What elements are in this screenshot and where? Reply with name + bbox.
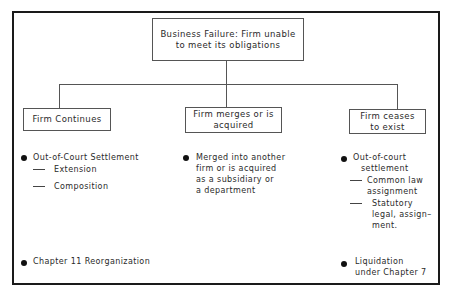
subitem-extension: Extension [54, 164, 97, 175]
connector-root-down [226, 61, 227, 84]
connector-horizontal [59, 84, 398, 85]
connector-left-down [59, 84, 60, 108]
bullet-icon [341, 156, 347, 162]
root-node-line1: Business Failure: Firm unable [160, 29, 295, 40]
root-node-line2: to meet its obligations [176, 40, 281, 51]
subitem-common-law-line2: assignment [367, 186, 418, 197]
root-node-business-failure: Business Failure: Firm unable to meet it… [152, 18, 304, 61]
bullet-icon [341, 261, 347, 267]
item-chapter-11: Chapter 11 Reorganization [33, 256, 150, 267]
bullet-icon [21, 260, 27, 266]
item-out-of-court-settlement: Out-of-Court Settlement [33, 152, 139, 163]
branch-firm-ceases: Firm ceases to exist [349, 109, 426, 134]
subitem-common-law-line1: Common law [367, 175, 423, 186]
dash-icon [350, 180, 362, 181]
subitem-statutory-line3: ment. [372, 220, 397, 231]
subitem-composition: Composition [54, 181, 108, 192]
bullet-icon [183, 155, 189, 161]
bullet-icon [21, 155, 27, 161]
branch-firm-merges-line1: Firm merges or is [193, 109, 274, 120]
dash-icon [33, 169, 45, 170]
dash-icon [33, 186, 45, 187]
item-merged-line3: as a subsidiary or [196, 174, 274, 185]
item-out-of-court-line2: settlement [361, 163, 408, 174]
dash-icon [350, 203, 362, 204]
item-out-of-court-line1: Out-of-court [353, 152, 406, 163]
branch-firm-merges-line2: acquired [213, 120, 253, 131]
branch-firm-merges: Firm merges or is acquired [185, 107, 282, 133]
subitem-statutory-line1: Statutory [372, 198, 413, 209]
branch-firm-ceases-line1: Firm ceases [360, 111, 415, 122]
item-merged-line2: firm or is acquired [196, 163, 277, 174]
subitem-statutory-line2: legal, assign– [372, 209, 432, 220]
item-liquidation-line1: Liquidation [355, 256, 404, 267]
item-liquidation-line2: under Chapter 7 [355, 267, 427, 278]
item-merged-line4: a department [196, 185, 256, 196]
branch-firm-continues: Firm Continues [23, 108, 111, 131]
connector-middle-down [226, 84, 227, 107]
item-merged-line1: Merged into another [196, 152, 285, 163]
connector-right-down [397, 84, 398, 109]
branch-firm-ceases-line2: to exist [370, 122, 405, 133]
branch-firm-continues-label: Firm Continues [32, 114, 101, 125]
